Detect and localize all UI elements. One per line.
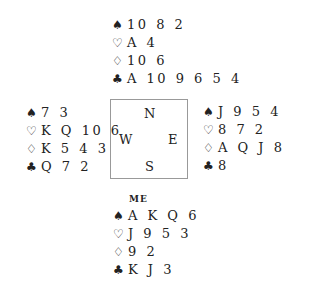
east-diamonds-cards: A Q J 8 7 [218,139,292,157]
south-clubs-cards: K J 3 [128,261,174,279]
north-clubs: ♣ A 10 9 6 5 4 [112,70,242,88]
south-diamonds: ♢ 9 2 [113,243,199,261]
spade-icon: ♠ [112,16,125,34]
diamond-icon: ♢ [112,52,125,70]
diamond-icon: ♢ [26,140,39,158]
east-hearts: ♡ 8 7 2 [203,121,292,139]
west-spades: ♠ 7 3 [26,104,122,122]
compass-south: S [145,160,154,173]
north-spades-cards: 10 8 2 [127,16,185,34]
heart-icon: ♡ [112,34,125,52]
heart-icon: ♡ [203,121,216,139]
west-spades-cards: 7 3 [41,104,70,122]
diamond-icon: ♢ [113,243,126,261]
north-hearts-cards: A 4 [127,34,157,52]
east-spades-cards: J 9 5 4 [218,103,281,121]
west-clubs-cards: Q 7 2 [41,158,91,176]
compass-east: E [168,133,178,146]
east-hand: ♠ J 9 5 4 ♡ 8 7 2 ♢ A Q J 8 7 ♣ 8 [203,103,292,175]
south-diamonds-cards: 9 2 [128,243,157,261]
west-hearts: ♡ K Q 10 6 [26,122,122,140]
east-clubs-cards: 8 [218,157,229,175]
north-diamonds: ♢ 10 6 [112,52,242,70]
east-hearts-cards: 8 7 2 [218,121,266,139]
spade-icon: ♠ [26,104,39,122]
east-diamonds: ♢ A Q J 8 7 [203,139,292,157]
east-spades: ♠ J 9 5 4 [203,103,292,121]
north-spades: ♠ 10 8 2 [112,16,242,34]
club-icon: ♣ [203,157,216,175]
south-spades-cards: A K Q 6 [128,207,199,225]
north-hearts: ♡ A 4 [112,34,242,52]
north-diamonds-cards: 10 6 [127,52,167,70]
north-clubs-cards: A 10 9 6 5 4 [127,70,242,88]
club-icon: ♣ [26,158,39,176]
spade-icon: ♠ [113,207,126,225]
south-clubs: ♣ K J 3 [113,261,199,279]
west-hand: ♠ 7 3 ♡ K Q 10 6 ♢ K 5 4 3 ♣ Q 7 2 [26,104,122,176]
club-icon: ♣ [112,70,125,88]
east-clubs: ♣ 8 [203,157,292,175]
south-hand: ME ♠ A K Q 6 ♡ J 9 5 3 ♢ 9 2 ♣ K J 3 [113,191,199,279]
west-diamonds: ♢ K 5 4 3 [26,140,122,158]
west-clubs: ♣ Q 7 2 [26,158,122,176]
compass-west: W [119,133,132,146]
south-player-label: ME [113,191,199,207]
compass-box: N W E S [110,99,188,179]
heart-icon: ♡ [113,225,126,243]
spade-icon: ♠ [203,103,216,121]
diamond-icon: ♢ [203,139,216,157]
south-spades: ♠ A K Q 6 [113,207,199,225]
south-hearts-cards: J 9 5 3 [128,225,191,243]
compass-north: N [144,107,155,120]
club-icon: ♣ [113,261,126,279]
south-hearts: ♡ J 9 5 3 [113,225,199,243]
heart-icon: ♡ [26,122,39,140]
north-hand: ♠ 10 8 2 ♡ A 4 ♢ 10 6 ♣ A 10 9 6 5 4 [112,16,242,88]
west-diamonds-cards: K 5 4 3 [41,140,108,158]
